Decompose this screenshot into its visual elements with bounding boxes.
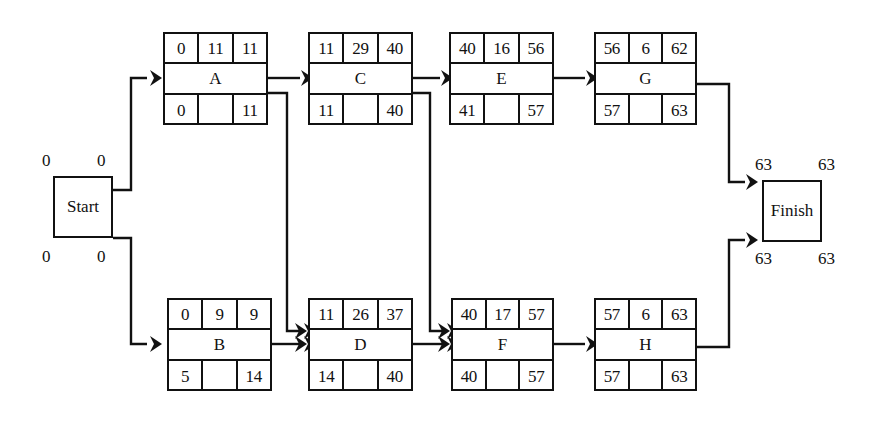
node-d-duration: 26 [344, 300, 378, 328]
node-f-name: F [453, 335, 552, 355]
node-a-top-row: 0 11 11 [165, 34, 266, 64]
node-h-bottom-row: 57 63 [596, 361, 695, 391]
node-g-early-finish: 62 [663, 34, 695, 62]
node-h-late-finish: 63 [663, 361, 695, 391]
activity-node-c[interactable]: 11 29 40 C 11 40 [308, 32, 413, 125]
activity-node-b[interactable]: 0 9 9 B 5 14 [167, 298, 272, 391]
edge-f-to-h [554, 336, 598, 352]
node-b-name: B [169, 335, 270, 355]
node-d-bottom-row: 14 40 [310, 361, 411, 391]
finish-bottom-right-value: 63 [818, 250, 835, 267]
node-d-slack [344, 361, 378, 391]
node-h-early-finish: 63 [663, 300, 695, 328]
node-e-top-row: 40 16 56 [451, 34, 552, 64]
node-c-late-finish: 40 [379, 95, 411, 125]
start-bottom-right-value: 0 [97, 248, 106, 265]
edge-h-to-finish [697, 232, 758, 347]
node-a-slack [199, 95, 233, 125]
node-c-name: C [310, 69, 411, 89]
node-f-top-row: 40 17 57 [453, 300, 552, 330]
node-a-bottom-row: 0 11 [165, 95, 266, 125]
edge-c-to-e [413, 70, 453, 86]
finish-bottom-left-value: 63 [755, 250, 772, 267]
node-f-late-finish: 57 [520, 361, 552, 391]
node-e-slack [485, 95, 519, 125]
start-top-left-value: 0 [42, 152, 51, 169]
node-d-early-start: 11 [310, 300, 344, 328]
node-a-name-row: A [165, 64, 266, 95]
node-e-bottom-row: 41 57 [451, 95, 552, 125]
edge-e-to-g [554, 70, 598, 86]
node-a-early-start: 0 [165, 34, 199, 62]
node-e-name: E [451, 69, 552, 89]
node-b-late-start: 5 [169, 361, 203, 391]
finish-node[interactable]: Finish [762, 180, 822, 242]
node-g-late-finish: 63 [663, 95, 695, 125]
node-g-name: G [596, 69, 695, 89]
node-b-slack [203, 361, 237, 391]
node-c-late-start: 11 [310, 95, 344, 125]
node-b-duration: 9 [203, 300, 237, 328]
activity-node-d[interactable]: 11 26 37 D 14 40 [308, 298, 413, 391]
start-top-right-value: 0 [97, 152, 106, 169]
node-c-early-finish: 40 [379, 34, 411, 62]
node-e-duration: 16 [485, 34, 519, 62]
node-h-name: H [596, 335, 695, 355]
activity-node-e[interactable]: 40 16 56 E 41 57 [449, 32, 554, 125]
node-f-bottom-row: 40 57 [453, 361, 552, 391]
node-b-early-finish: 9 [238, 300, 270, 328]
node-e-late-finish: 57 [520, 95, 552, 125]
node-c-slack [344, 95, 378, 125]
edge-layer [0, 0, 880, 423]
node-c-name-row: C [310, 64, 411, 95]
network-diagram-canvas: Start 0 0 0 0 0 11 11 A 0 11 11 29 40 C … [0, 0, 880, 423]
activity-node-g[interactable]: 56 6 62 G 57 63 [594, 32, 697, 125]
start-node[interactable]: Start [53, 176, 113, 238]
node-g-slack [630, 95, 664, 125]
node-a-duration: 11 [199, 34, 233, 62]
finish-node-label: Finish [771, 201, 814, 221]
activity-node-h[interactable]: 57 6 63 H 57 63 [594, 298, 697, 391]
node-f-slack [487, 361, 521, 391]
node-d-late-start: 14 [310, 361, 344, 391]
node-e-early-start: 40 [451, 34, 485, 62]
node-h-early-start: 57 [596, 300, 630, 328]
node-h-duration: 6 [630, 300, 664, 328]
node-f-early-start: 40 [453, 300, 487, 328]
node-f-late-start: 40 [453, 361, 487, 391]
node-f-name-row: F [453, 330, 552, 361]
node-d-late-finish: 40 [379, 361, 411, 391]
node-d-name: D [310, 335, 411, 355]
node-g-bottom-row: 57 63 [596, 95, 695, 125]
activity-node-f[interactable]: 40 17 57 F 40 57 [451, 298, 554, 391]
node-h-slack [630, 361, 664, 391]
start-bottom-left-value: 0 [42, 248, 51, 265]
node-c-duration: 29 [344, 34, 378, 62]
node-c-early-start: 11 [310, 34, 344, 62]
start-node-label: Start [67, 197, 99, 217]
edge-a-to-c [268, 70, 313, 86]
edge-start-to-a [113, 70, 162, 190]
node-g-duration: 6 [630, 34, 664, 62]
node-h-late-start: 57 [596, 361, 630, 391]
finish-top-right-value: 63 [818, 156, 835, 173]
node-a-late-finish: 11 [234, 95, 266, 125]
node-b-name-row: B [169, 330, 270, 361]
node-e-name-row: E [451, 64, 552, 95]
node-d-top-row: 11 26 37 [310, 300, 411, 330]
node-a-name: A [165, 69, 266, 89]
finish-top-left-value: 63 [755, 156, 772, 173]
edge-g-to-finish [697, 84, 758, 190]
node-g-top-row: 56 6 62 [596, 34, 695, 64]
node-d-early-finish: 37 [379, 300, 411, 328]
node-e-early-finish: 56 [520, 34, 552, 62]
activity-node-a[interactable]: 0 11 11 A 0 11 [163, 32, 268, 125]
node-a-late-start: 0 [165, 95, 199, 125]
node-g-late-start: 57 [596, 95, 630, 125]
node-b-late-finish: 14 [238, 361, 270, 391]
node-h-name-row: H [596, 330, 695, 361]
node-b-early-start: 0 [169, 300, 203, 328]
node-a-early-finish: 11 [234, 34, 266, 62]
node-d-name-row: D [310, 330, 411, 361]
node-h-top-row: 57 6 63 [596, 300, 695, 330]
